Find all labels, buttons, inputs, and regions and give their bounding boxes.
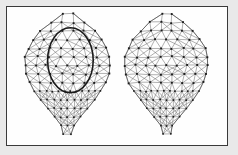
mesh-edge: [26, 56, 38, 65]
mesh-vertex: [161, 13, 163, 15]
mesh-vertex: [73, 117, 75, 119]
mesh-vertex: [37, 73, 39, 75]
mesh-edge: [193, 49, 207, 58]
mesh-vertex: [80, 99, 82, 101]
mesh-edge: [171, 23, 182, 30]
mesh-edge: [74, 57, 78, 66]
mesh-edge: [144, 40, 150, 48]
mesh-edge: [153, 108, 160, 109]
mesh-edge: [199, 82, 203, 91]
mesh-vertex: [55, 39, 57, 41]
mesh-edge: [177, 66, 185, 74]
mesh-edge: [141, 22, 150, 32]
mesh-vertex: [43, 39, 45, 41]
mesh-edge: [146, 66, 161, 75]
mesh-vertex: [80, 116, 82, 118]
mesh-edge: [86, 57, 97, 58]
mesh-vertex: [176, 65, 178, 67]
mesh-edge: [51, 22, 62, 31]
mesh-edge: [188, 83, 194, 91]
mesh-vertex: [96, 57, 98, 59]
mesh-vertex: [94, 90, 96, 92]
mesh-vertex: [202, 81, 204, 83]
mesh-vertex: [66, 39, 68, 41]
mesh-vertex: [24, 56, 26, 58]
mesh-vertex: [186, 108, 188, 110]
mesh-vertex: [140, 99, 142, 101]
mesh-edge: [150, 22, 151, 31]
mesh-edge: [161, 39, 166, 48]
mesh-edge: [136, 65, 137, 74]
mesh-edge: [171, 49, 183, 57]
mesh-edge: [139, 48, 149, 57]
mesh-vertex: [161, 30, 163, 32]
mesh-edge: [193, 39, 199, 48]
mesh-vertex: [72, 82, 74, 84]
mesh-vertex: [83, 47, 85, 49]
mesh-vertex: [162, 133, 164, 135]
mesh-vertex: [173, 99, 175, 101]
mesh-vertex: [105, 47, 107, 49]
mesh-vertex: [145, 65, 147, 67]
mesh-edge: [61, 48, 73, 49]
mesh-vertex: [176, 38, 178, 40]
mesh-vertex: [183, 56, 185, 58]
mesh-edge: [84, 23, 95, 31]
mesh-edge: [73, 49, 74, 57]
mesh-vertex: [50, 22, 52, 24]
mesh-vertex: [192, 30, 194, 32]
mesh-vertex: [199, 38, 201, 40]
mesh-vertex: [85, 56, 87, 58]
mesh-vertex: [54, 116, 56, 118]
mesh-vertex: [163, 90, 165, 92]
mesh-vertex: [192, 90, 194, 92]
mesh-edge: [137, 74, 149, 75]
mesh-vertex: [100, 90, 102, 92]
mesh-edge: [74, 48, 84, 57]
mesh-edge: [73, 83, 84, 84]
mesh-vertex: [73, 125, 75, 127]
mesh-vertex: [95, 47, 97, 49]
mesh-edge: [126, 74, 137, 75]
mesh-edge: [133, 30, 151, 39]
mesh-vertex: [166, 116, 168, 118]
mesh-vertex: [198, 90, 200, 92]
mesh-edge: [148, 58, 155, 66]
mesh-vertex: [166, 125, 168, 127]
mesh-vertex: [170, 22, 172, 24]
mesh-vertex: [182, 21, 184, 23]
mesh-vertex: [32, 39, 34, 41]
mesh-edge: [157, 83, 160, 91]
mesh-edge: [49, 57, 56, 66]
mesh-vertex: [39, 48, 41, 50]
mesh-vertex: [135, 64, 137, 66]
mesh-vertex: [55, 65, 57, 67]
mesh-vertex: [46, 99, 48, 101]
mesh-vertex: [207, 64, 209, 66]
mesh-vertex: [196, 57, 198, 59]
mesh-edge: [177, 65, 187, 66]
mesh-edge: [141, 100, 147, 108]
mesh-vertex: [170, 133, 172, 135]
mesh-vertex: [128, 47, 130, 49]
figure-root: [0, 0, 238, 155]
mesh-vertex: [60, 108, 62, 110]
mesh-vertex: [73, 22, 75, 24]
mesh-edge: [96, 40, 102, 48]
mesh-edge: [73, 31, 79, 40]
mesh-edge: [162, 30, 166, 39]
mesh-edge: [149, 66, 155, 75]
mesh-vertex: [39, 82, 41, 84]
mesh-vertex: [171, 82, 173, 84]
mesh-edge: [67, 57, 73, 65]
mesh-vertex: [85, 74, 87, 76]
mesh-edge: [171, 22, 183, 23]
mesh-edge: [155, 39, 161, 48]
mesh-vertex: [171, 55, 173, 57]
mesh-edge: [189, 39, 199, 40]
mesh-edge: [40, 83, 51, 84]
mesh-edge: [150, 75, 161, 82]
mesh-vertex: [160, 74, 162, 76]
mesh-edge: [161, 56, 172, 57]
mesh-edge: [61, 109, 62, 118]
